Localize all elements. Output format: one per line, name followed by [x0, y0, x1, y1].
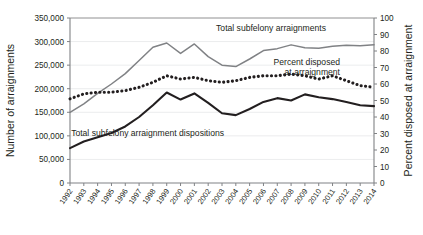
x-axis-tick-label: 2001: [182, 187, 199, 206]
y-axis-left-tick-label: 50,000: [39, 155, 64, 164]
series-annotation-label: at arraignment: [285, 67, 341, 77]
x-axis-tick-label: 2007: [265, 187, 282, 206]
x-axis-tick-label: 2011: [320, 187, 337, 206]
line-chart: 050,000100,000150,000200,000250,000300,0…: [0, 0, 423, 235]
x-axis-tick-label: 2002: [196, 187, 213, 206]
y-axis-right-title: Percent disposed at arraignment: [402, 25, 414, 177]
series-annotation-label: Total subfelony arraignment dispositions: [71, 128, 224, 138]
y-axis-left-tick-label: 100,000: [34, 132, 64, 141]
x-axis-tick-label: 1996: [113, 187, 130, 206]
y-axis-right-tick-label: 70: [380, 64, 390, 73]
y-axis-right-tick-label: 20: [380, 146, 390, 155]
x-axis-tick-label: 2009: [292, 187, 309, 206]
x-axis-tick-label: 1998: [140, 187, 157, 206]
x-axis-tick-label: 1992: [58, 187, 75, 206]
y-axis-left-tick-label: 300,000: [34, 38, 64, 47]
y-axis-right-tick-label: 60: [380, 80, 390, 89]
series-annotation-label: Percent disposed: [274, 57, 341, 67]
y-axis-left-tick-label: 150,000: [34, 108, 64, 117]
series-annotation-label: Total subfelony arraignments: [216, 23, 326, 33]
x-axis-tick-label: 2003: [210, 187, 227, 206]
x-axis-tick-label: 2000: [168, 187, 185, 206]
y-axis-right-tick-label: 40: [380, 113, 390, 122]
x-axis-tick-label: 2008: [279, 187, 296, 206]
y-axis-right-tick-label: 90: [380, 31, 390, 40]
y-axis-left-tick-label: 200,000: [34, 85, 64, 94]
x-axis-tick-label: 2010: [306, 187, 323, 206]
x-axis-tick-label: 2006: [251, 187, 268, 206]
y-axis-right-tick-label: 0: [380, 179, 385, 188]
plot-background: [70, 18, 374, 183]
chart-container: 050,000100,000150,000200,000250,000300,0…: [0, 0, 423, 235]
x-axis-tick-label: 2013: [348, 187, 365, 206]
x-axis-tick-label: 2004: [223, 187, 240, 206]
x-axis-tick-label: 1999: [154, 187, 171, 206]
x-axis-tick-label: 2005: [237, 187, 254, 206]
x-axis-tick-label: 1995: [99, 187, 116, 206]
x-axis-tick-label: 1993: [71, 187, 88, 206]
y-axis-right-tick-label: 80: [380, 47, 390, 56]
y-axis-right-tick-label: 50: [380, 97, 390, 106]
y-axis-left-tick-label: 350,000: [34, 14, 64, 23]
y-axis-right-tick-label: 100: [380, 14, 394, 23]
x-axis-tick-label: 2014: [362, 187, 379, 206]
x-axis-tick-label: 1997: [127, 187, 144, 206]
x-axis-tick-label: 1994: [85, 187, 102, 206]
y-axis-right-tick-label: 30: [380, 130, 390, 139]
y-axis-left-tick-label: 0: [59, 179, 64, 188]
y-axis-left-tick-label: 250,000: [34, 61, 64, 70]
x-axis-tick-label: 2012: [334, 187, 351, 206]
y-axis-left-title: Number of arraignments: [4, 44, 16, 157]
y-axis-right-tick-label: 10: [380, 163, 390, 172]
